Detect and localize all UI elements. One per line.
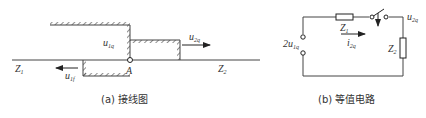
source-terminal-top [301,35,305,39]
equivalent-circuit: 2u1q Z1 Z2 i2q u2q (b) 等值电路 [283,9,418,105]
z1-line-label: Z1 [15,63,24,75]
current-label: i2q [347,37,356,49]
source-voltage-label: 2u1q [283,38,299,50]
circuit-wire-right [389,17,403,38]
reflected-wave-label: u1f [65,70,76,82]
caption-b: (b) 等值电路 [318,93,375,105]
z2-line-label: Z2 [218,63,227,75]
circuit-wire-top-left [303,17,336,34]
junction-label: A [125,65,133,76]
refracted-wave-label: u2q [189,31,200,43]
incident-wave-shape [50,22,130,60]
z2-label: Z2 [388,43,397,55]
refracted-wave-shape [130,40,180,60]
diagram-canvas: Z1 Z2 u1q u2q u1f A (a) 接线图 2u1q [0,0,426,118]
incident-wave-label: u1q [103,37,114,49]
wiring-diagram: Z1 Z2 u1q u2q u1f A (a) 接线图 [12,22,260,105]
switch [370,9,388,26]
z1-label: Z1 [340,22,349,34]
z1-impedance [336,14,353,20]
z2-impedance [400,38,406,58]
reflected-wave-shape [83,60,130,76]
circuit-wire-bottom [303,55,403,76]
source-terminal-bottom [301,51,305,55]
output-voltage-label: u2q [407,11,418,23]
caption-a: (a) 接线图 [101,93,148,105]
junction-node [128,58,133,63]
